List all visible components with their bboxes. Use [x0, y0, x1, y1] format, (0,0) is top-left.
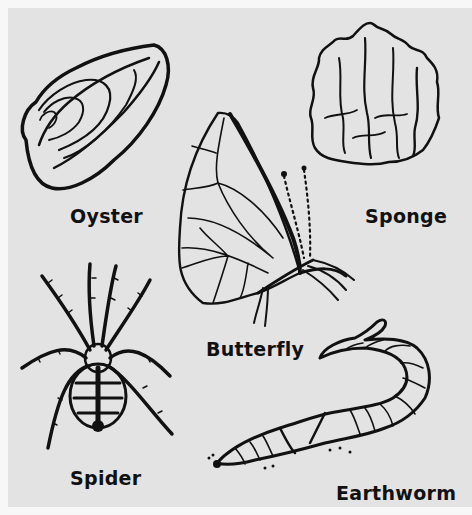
earthworm-label: Earthworm — [336, 482, 456, 504]
spider-label: Spider — [70, 467, 141, 489]
butterfly-illustration — [168, 108, 363, 333]
oyster-illustration — [14, 40, 174, 195]
earthworm-illustration — [205, 318, 440, 473]
sponge-label: Sponge — [365, 205, 447, 227]
oyster-label: Oyster — [70, 205, 143, 227]
spider-illustration — [18, 258, 188, 458]
